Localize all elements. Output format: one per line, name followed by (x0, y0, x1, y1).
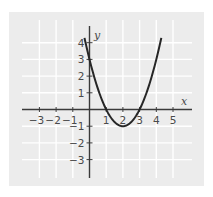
y-tick-label: −1 (69, 120, 84, 132)
x-tick-label: −2 (45, 114, 60, 126)
x-axis-label: x (181, 95, 188, 108)
x-tick-labels: −3−2−112345 (29, 114, 177, 126)
x-tick-label: 5 (170, 114, 177, 126)
y-axis-label: y (93, 29, 101, 42)
parabola-graph: −3−2−112345 4321−1−2−3 x y (0, 0, 213, 197)
y-tick-label: −3 (69, 154, 84, 166)
y-tick-label: 1 (78, 87, 85, 99)
y-tick-label: 3 (78, 53, 85, 65)
x-tick-label: −3 (29, 114, 44, 126)
x-tick-label: 4 (153, 114, 160, 126)
x-tick-label: 2 (120, 114, 127, 126)
y-tick-label: −2 (69, 137, 84, 149)
y-tick-label: 2 (78, 70, 85, 82)
